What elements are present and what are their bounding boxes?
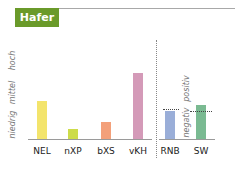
bar-nel xyxy=(37,101,47,139)
bar-vkh xyxy=(133,73,143,139)
side-label-negativ: negativ xyxy=(182,105,191,141)
x-label-rnb: RNB xyxy=(155,146,185,156)
bar-nxp xyxy=(68,129,78,139)
group-divider xyxy=(156,40,157,158)
refline-sw xyxy=(190,111,212,112)
refline-rnb xyxy=(163,109,179,110)
x-label-nxp: nXP xyxy=(58,146,88,156)
y-label-niedrig: niedrig xyxy=(8,107,17,143)
x-label-vkh: vKH xyxy=(123,146,153,156)
x-label-bxs: bXS xyxy=(91,146,121,156)
y-label-mittel: mittel xyxy=(8,75,17,111)
bar-bxs xyxy=(101,122,111,139)
x-label-sw: SW xyxy=(186,146,216,156)
x-label-nel: NEL xyxy=(27,146,57,156)
baseline-left xyxy=(28,139,152,140)
chart-title: Hafer xyxy=(15,8,59,27)
y-label-hoch: hoch xyxy=(8,43,17,79)
side-label-positiv: positiv xyxy=(182,71,191,107)
bar-rnb xyxy=(165,111,175,139)
